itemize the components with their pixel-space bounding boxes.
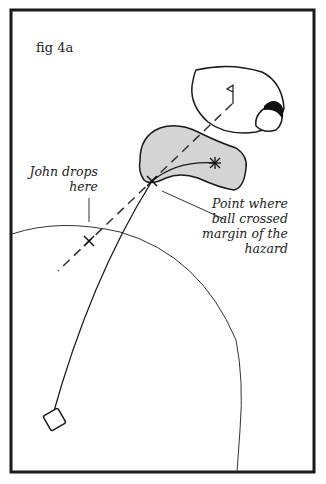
hazard: [140, 126, 247, 190]
crossing-label-line-4: hazard: [244, 241, 288, 256]
figure-title: fig 4a: [36, 40, 73, 55]
drop-label-line-2: here: [69, 179, 98, 194]
drop-label-line-1: John drops: [26, 164, 98, 179]
drop-mark: [84, 236, 94, 246]
figure-canvas: fig 4a John drops here Point where ball …: [0, 0, 326, 484]
ball-rest-mark: [209, 157, 221, 169]
crossing-label-line-1: Point where: [211, 196, 288, 211]
ball-path: [52, 163, 215, 418]
tee-box: [43, 408, 66, 431]
distance-arc: [12, 225, 241, 472]
crossing-label-line-2: ball crossed: [212, 211, 288, 226]
crossing-label-line-3: margin of the: [202, 226, 288, 241]
